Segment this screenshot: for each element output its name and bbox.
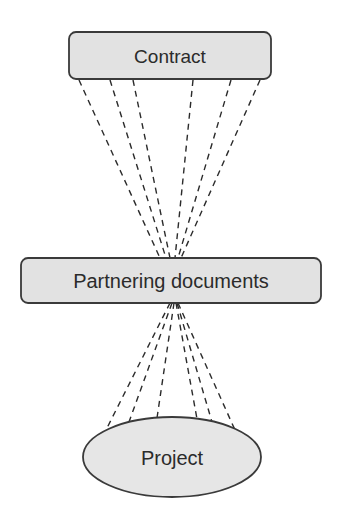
dashed-connector <box>105 303 170 432</box>
dashed-connector <box>157 303 174 418</box>
edges-contract-to-partnering <box>79 80 260 258</box>
project-label: Project <box>141 447 204 469</box>
dashed-connector <box>178 303 235 430</box>
node-partnering-documents: Partnering documents <box>21 258 321 303</box>
node-contract: Contract <box>69 32 271 79</box>
diagram-canvas: Contract Partnering documents Project <box>0 0 338 517</box>
dashed-connector <box>181 80 260 258</box>
edges-partnering-to-project <box>105 303 235 432</box>
partnering-documents-label: Partnering documents <box>73 270 269 292</box>
dashed-connector <box>178 80 231 258</box>
node-project: Project <box>83 417 261 497</box>
contract-label: Contract <box>134 46 207 67</box>
dashed-connector <box>79 80 160 258</box>
dashed-connector <box>175 80 193 258</box>
